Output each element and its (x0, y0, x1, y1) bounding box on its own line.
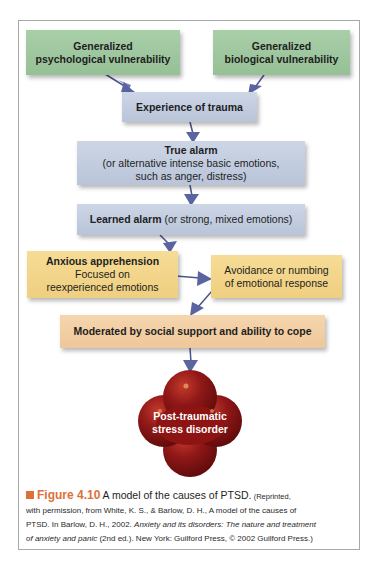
figure-credit: PTSD. In Barlow, D. H., 2002. (26, 520, 134, 529)
node-detail: of emotional response (225, 277, 328, 290)
figure-credit: (2nd ed.). New York: Guilford Press, © 2… (97, 534, 313, 543)
node-biological-vulnerability: Generalized biological vulnerability (213, 30, 350, 75)
figure-credit: (Reprinted, (254, 492, 291, 501)
arrow-true-to-learned (184, 185, 199, 206)
ptsd-label-line2: stress disorder (140, 423, 240, 436)
node-title: Anxious apprehension (46, 255, 159, 268)
arrow-trauma-to-true-alarm (186, 122, 200, 143)
ptsd-label-line1: Post-traumatic (140, 410, 240, 423)
figure-book-title: Anxiety and its disorders: The nature an… (134, 520, 316, 529)
node-anxious-apprehension: Anxious apprehension Focused on reexperi… (27, 251, 178, 298)
node-experience-of-trauma: Experience of trauma (122, 92, 257, 122)
figure-book-title: of anxiety and panic (26, 534, 97, 543)
node-avoidance-numbing: Avoidance or numbing of emotional respon… (211, 255, 342, 298)
arrow-anxious-to-avoidance (176, 271, 212, 286)
node-title: True alarm (164, 144, 217, 157)
node-detail: reexperienced emotions (46, 281, 158, 294)
caption-square-icon (26, 491, 34, 499)
node-title: Experience of trauma (136, 101, 243, 114)
figure-caption: Figure 4.10 A model of the causes of PTS… (26, 488, 356, 546)
node-subtitle: biological vulnerability (225, 53, 339, 66)
node-true-alarm: True alarm (or alternative intense basic… (77, 141, 305, 185)
figure-number: Figure 4.10 (37, 488, 100, 502)
figure-credit: with permission, from White, K. S., & Ba… (26, 504, 356, 518)
node-detail: Avoidance or numbing (224, 264, 328, 277)
figure-title: A model of the causes of PTSD. (103, 489, 252, 501)
node-title: Moderated by social support and ability … (73, 325, 311, 338)
node-detail: (or strong, mixed emotions) (162, 213, 293, 226)
node-ptsd-label: Post-traumatic stress disorder (140, 410, 240, 436)
node-subtitle: psychological vulnerability (36, 53, 171, 66)
node-detail: Focused on (75, 268, 130, 281)
node-detail: such as anger, distress) (136, 170, 247, 183)
node-title: Generalized (73, 40, 133, 53)
node-title: Generalized (252, 40, 312, 53)
node-moderated-by-social-support: Moderated by social support and ability … (60, 315, 325, 348)
node-title: Learned alarm (90, 213, 162, 226)
node-psychological-vulnerability: Generalized psychological vulnerability (26, 30, 180, 75)
node-detail: (or alternative intense basic emotions, (103, 157, 280, 170)
arrow-avoidance-to-moderated (190, 291, 212, 316)
node-learned-alarm: Learned alarm (or strong, mixed emotions… (77, 204, 305, 235)
arrow-moderated-to-ptsd (183, 348, 198, 373)
